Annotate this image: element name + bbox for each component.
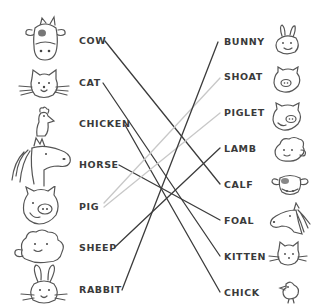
right-label-calf: CALF: [224, 180, 253, 190]
calf-icon: [270, 172, 310, 198]
chicken-icon: [33, 106, 59, 138]
left-label-cow: COW: [79, 36, 106, 46]
bunny-icon: [272, 24, 302, 56]
cow-icon: [22, 14, 68, 64]
horse-icon: [4, 136, 72, 192]
connection-line-horse-foal: [119, 165, 220, 220]
left-label-cat: CAT: [79, 78, 101, 88]
right-label-piglet: PIGLET: [224, 108, 265, 118]
connection-line-cat-kitten: [103, 83, 220, 256]
right-label-kitten: KITTEN: [224, 252, 266, 262]
right-label-shoat: SHOAT: [224, 72, 263, 82]
rabbit-icon: [20, 264, 68, 308]
right-label-chick: CHICK: [224, 288, 260, 298]
cat-icon: [18, 68, 70, 102]
shoat-icon: [271, 66, 303, 94]
pig-icon: [20, 186, 62, 226]
connection-line-pig-shoat: [104, 78, 220, 203]
left-label-rabbit: RABBIT: [79, 285, 122, 295]
left-label-pig: PIG: [79, 202, 99, 212]
lamb-icon: [272, 136, 308, 164]
sheep-icon: [12, 228, 68, 266]
foal-icon: [268, 202, 312, 238]
chick-icon: [278, 280, 304, 304]
right-label-lamb: LAMB: [224, 144, 257, 154]
connection-line-chicken-chick: [125, 125, 220, 292]
matching-worksheet: COW CAT CHICKEN HORSE PIG SHEEP RABBIT B…: [0, 0, 332, 308]
left-label-horse: HORSE: [79, 160, 119, 170]
right-label-bunny: BUNNY: [224, 37, 265, 47]
left-label-chicken: CHICKEN: [79, 119, 130, 129]
right-label-foal: FOAL: [224, 216, 254, 226]
kitten-icon: [268, 240, 308, 270]
piglet-icon: [271, 102, 303, 132]
left-label-sheep: SHEEP: [79, 243, 117, 253]
